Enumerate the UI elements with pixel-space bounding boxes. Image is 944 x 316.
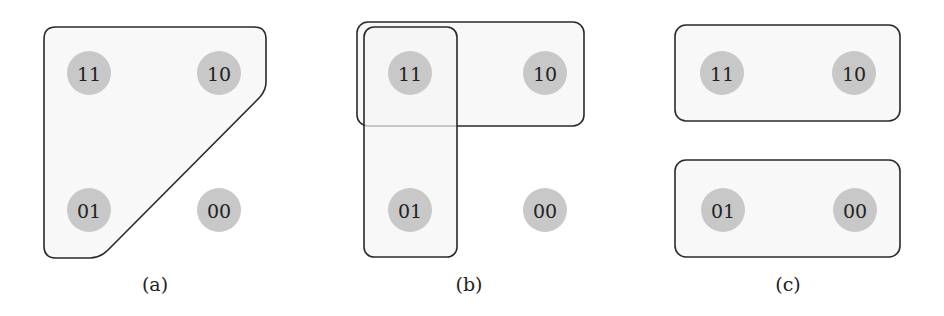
node-10: 10 [523, 51, 567, 95]
caption-c: (c) [775, 273, 800, 295]
svg-text:11: 11 [398, 63, 422, 85]
node-00: 00 [197, 188, 241, 232]
svg-text:11: 11 [710, 63, 734, 85]
caption-b: (b) [456, 273, 483, 295]
diagram-canvas: 11 10 01 00 11 10 01 [0, 0, 944, 316]
svg-text:01: 01 [398, 200, 422, 222]
node-10: 10 [197, 51, 241, 95]
svg-text:00: 00 [843, 200, 867, 222]
node-01: 01 [67, 188, 111, 232]
node-11: 11 [388, 51, 432, 95]
svg-text:00: 00 [533, 200, 557, 222]
panel-a: 11 10 01 00 [44, 27, 266, 258]
svg-text:10: 10 [533, 63, 557, 85]
caption-a: (a) [142, 273, 168, 295]
node-01: 01 [701, 188, 745, 232]
panel-c: 11 10 01 00 [675, 25, 900, 257]
node-11: 11 [700, 51, 744, 95]
node-00: 00 [833, 188, 877, 232]
svg-text:10: 10 [207, 63, 231, 85]
node-00: 00 [523, 188, 567, 232]
svg-text:01: 01 [711, 200, 735, 222]
svg-text:01: 01 [77, 200, 101, 222]
svg-text:10: 10 [842, 63, 866, 85]
panel-b: 11 10 01 00 [357, 22, 584, 257]
node-01: 01 [388, 188, 432, 232]
node-11: 11 [67, 51, 111, 95]
svg-text:11: 11 [77, 63, 101, 85]
node-10: 10 [832, 51, 876, 95]
svg-text:00: 00 [207, 200, 231, 222]
